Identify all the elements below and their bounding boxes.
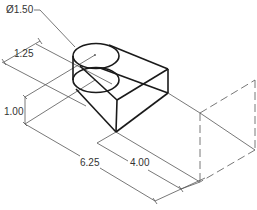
- partial-length-label: 4.00: [130, 157, 150, 168]
- hole-top-ellipse: [73, 44, 119, 69]
- ext-line-bottom: [116, 132, 200, 182]
- dim-line-625b: [100, 168, 155, 201]
- dimension-lines: [2, 10, 205, 204]
- dim-line-400b: [148, 170, 181, 189]
- dim-line-625a: [25, 124, 80, 156]
- ext-line-right: [168, 93, 200, 113]
- tick-400: [179, 186, 183, 192]
- tick-625: [153, 198, 157, 204]
- ext-line-400: [97, 132, 116, 143]
- hidden-view: [200, 80, 255, 182]
- total-length-label: 6.25: [80, 157, 100, 168]
- height-label: 1.00: [4, 106, 24, 117]
- isometric-drawing: Ø1.50 1.25 1.00 6.25 4.00: [0, 0, 257, 210]
- diameter-label: Ø1.50: [6, 4, 34, 15]
- ext-line-400b: [181, 182, 200, 189]
- tick-125a: [38, 38, 42, 44]
- hole-center-point: [94, 54, 96, 56]
- dim-line-400a: [97, 143, 128, 161]
- ext-line-625: [155, 178, 205, 201]
- hidden-diagonal: [200, 113, 255, 150]
- center-line-2: [25, 80, 95, 124]
- hole-offset-label: 1.25: [14, 48, 34, 59]
- object-lines: [73, 44, 168, 133]
